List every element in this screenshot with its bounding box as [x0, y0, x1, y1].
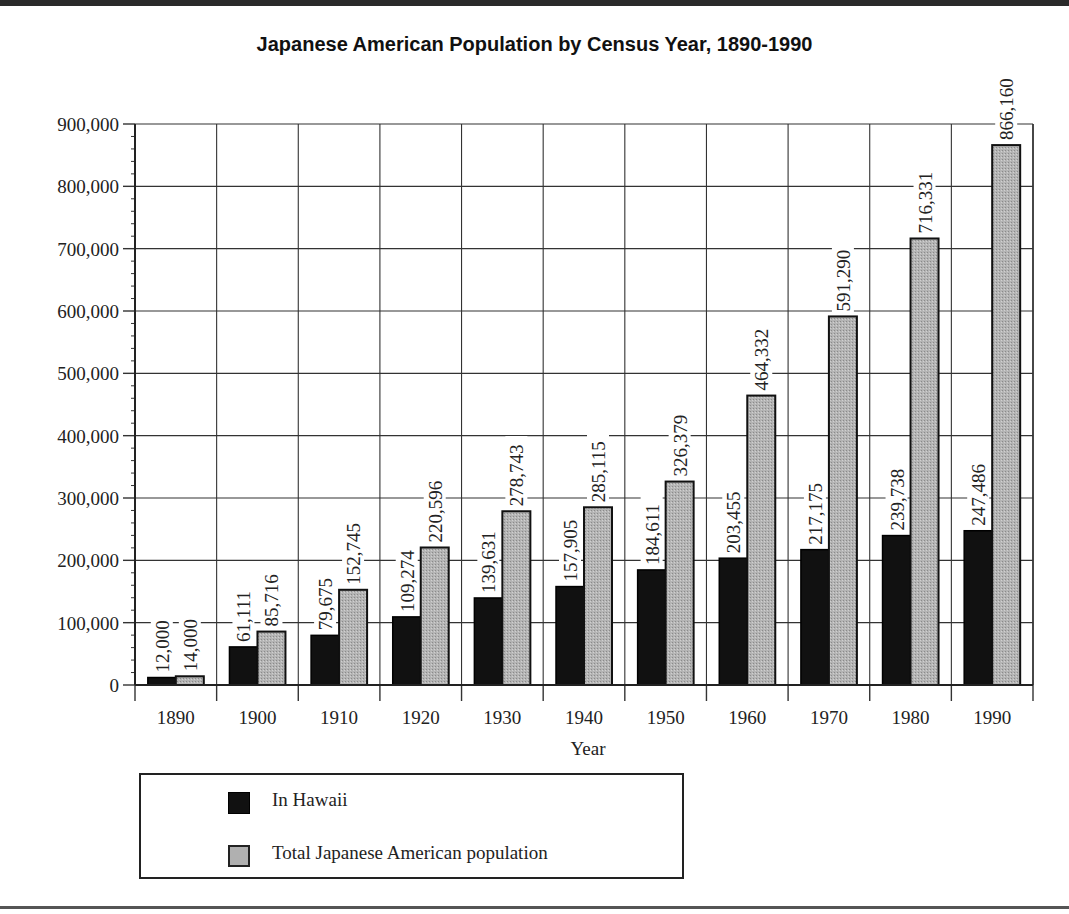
bar-in-hawaii — [638, 570, 666, 685]
y-tick-label: 800,000 — [57, 176, 119, 197]
value-label-hawaii: 203,455 — [723, 491, 744, 553]
bar-total — [584, 507, 612, 685]
bar-total — [829, 316, 857, 685]
bar-in-hawaii — [719, 558, 747, 685]
y-tick-label: 600,000 — [57, 301, 119, 322]
bar-total — [421, 547, 449, 685]
bar-total — [992, 145, 1020, 685]
value-label-hawaii: 139,631 — [478, 531, 499, 593]
x-tick-label: 1980 — [892, 707, 930, 728]
value-label-total: 85,716 — [261, 574, 282, 626]
value-label-hawaii: 109,274 — [397, 550, 418, 612]
y-tick-label: 400,000 — [57, 426, 119, 447]
bar-total — [911, 238, 939, 685]
value-label-total: 220,596 — [425, 481, 446, 543]
legend-swatch-black-icon — [228, 792, 250, 814]
bar-total — [257, 632, 285, 685]
bar-in-hawaii — [556, 587, 584, 685]
x-tick-label: 1990 — [973, 707, 1011, 728]
x-tick-label: 1940 — [565, 707, 603, 728]
y-tick-label: 300,000 — [57, 488, 119, 509]
value-label-total: 14,000 — [180, 619, 201, 671]
value-label-total: 326,379 — [670, 415, 691, 477]
bar-in-hawaii — [883, 536, 911, 685]
x-tick-label: 1910 — [320, 707, 358, 728]
x-tick-label: 1970 — [810, 707, 848, 728]
legend: In Hawaii Total Japanese American popula… — [139, 773, 684, 879]
bars: 12,00014,00061,11185,71679,675152,745109… — [148, 70, 1020, 685]
bottom-border — [0, 906, 1069, 909]
bar-in-hawaii — [229, 647, 257, 685]
x-axis-label: Year — [570, 738, 606, 759]
value-label-hawaii: 217,175 — [805, 483, 826, 545]
value-label-total: 866,160 — [996, 78, 1017, 140]
y-tick-label: 700,000 — [57, 239, 119, 260]
bar-total — [176, 676, 204, 685]
bar-total — [339, 590, 367, 685]
value-label-hawaii: 61,111 — [233, 591, 254, 642]
y-tick-label: 500,000 — [57, 363, 119, 384]
bar-total — [666, 482, 694, 685]
y-tick-label: 0 — [110, 675, 120, 696]
x-tick-label: 1920 — [402, 707, 440, 728]
value-label-total: 152,745 — [343, 523, 364, 585]
x-tick-label: 1960 — [728, 707, 766, 728]
x-tick-label: 1930 — [483, 707, 521, 728]
legend-label: Total Japanese American population — [272, 842, 548, 864]
x-tick-label: 1950 — [647, 707, 685, 728]
x-tick-label: 1900 — [238, 707, 276, 728]
value-label-hawaii: 157,905 — [560, 520, 581, 582]
bar-in-hawaii — [474, 598, 502, 685]
y-axis: 0100,000200,000300,000400,000500,000600,… — [57, 114, 136, 696]
value-label-hawaii: 184,611 — [642, 504, 663, 565]
legend-label: In Hawaii — [272, 789, 347, 811]
y-tick-label: 100,000 — [57, 613, 119, 634]
x-tick-label: 1890 — [157, 707, 195, 728]
legend-swatch-gray-icon — [228, 845, 250, 867]
value-label-total: 591,290 — [833, 250, 854, 312]
value-label-hawaii: 12,000 — [152, 620, 173, 672]
value-label-total: 716,331 — [915, 172, 936, 234]
y-tick-label: 900,000 — [57, 114, 119, 135]
value-label-total: 464,332 — [751, 329, 772, 391]
value-label-hawaii: 79,675 — [315, 578, 336, 630]
bar-in-hawaii — [393, 617, 421, 685]
bar-in-hawaii — [801, 550, 829, 685]
bar-in-hawaii — [148, 678, 176, 685]
value-label-hawaii: 239,738 — [887, 469, 908, 531]
value-label-total: 285,115 — [588, 441, 609, 502]
bar-total — [747, 396, 775, 685]
bar-in-hawaii — [311, 635, 339, 685]
x-axis: 1890190019101920193019401950196019701980… — [135, 685, 1033, 728]
value-label-total: 278,743 — [506, 445, 527, 507]
bar-in-hawaii — [964, 531, 992, 685]
y-tick-label: 200,000 — [57, 550, 119, 571]
bar-total — [502, 511, 530, 685]
value-label-hawaii: 247,486 — [968, 464, 989, 526]
